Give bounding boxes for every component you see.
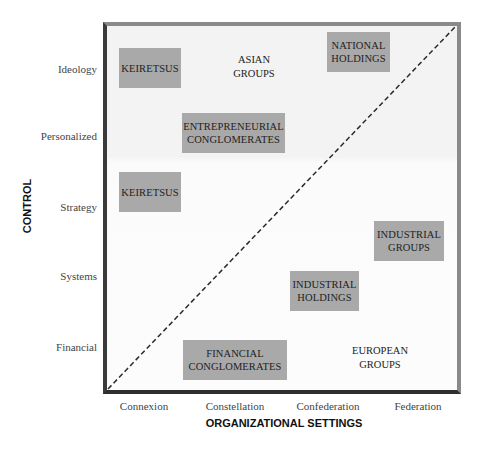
x-tick-federation: Federation (394, 400, 441, 412)
box-entrepreneurial-conglomerates: ENTREPRENEURIAL CONGLOMERATES (182, 113, 285, 153)
y-tick-personalized: Personalized (41, 130, 97, 142)
y-tick-systems: Systems (60, 270, 97, 282)
box-industrial-groups: INDUSTRIAL GROUPS (374, 221, 444, 261)
x-tick-constellation: Constellation (206, 400, 265, 412)
x-tick-confederation: Confederation (297, 400, 360, 412)
box-financial-conglomerates: FINANCIAL CONGLOMERATES (183, 340, 287, 380)
region-label-european-groups: EUROPEAN GROUPS (342, 344, 418, 372)
x-axis-label: ORGANIZATIONAL SETTINGS (206, 417, 363, 429)
region-label-asian-groups: ASIAN GROUPS (219, 53, 289, 81)
y-tick-financial: Financial (56, 341, 97, 353)
y-axis-label: CONTROL (21, 179, 33, 233)
y-tick-ideology: Ideology (58, 63, 97, 75)
box-national-holdings: NATIONAL HOLDINGS (327, 32, 390, 72)
x-tick-connexion: Connexion (120, 400, 168, 412)
box-keiretsus-strategy: KEIRETSUS (119, 172, 181, 212)
box-industrial-holdings: INDUSTRIAL HOLDINGS (290, 271, 359, 311)
box-keiretsus-ideology: KEIRETSUS (119, 48, 181, 88)
y-tick-strategy: Strategy (60, 201, 97, 213)
